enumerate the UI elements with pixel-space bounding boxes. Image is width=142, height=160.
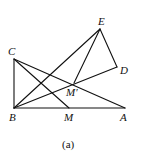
- label-D: D: [119, 64, 128, 76]
- figure-caption: (a): [62, 138, 75, 151]
- segment-B-E: [14, 29, 100, 108]
- label-B: B: [9, 111, 16, 123]
- label-A: A: [119, 111, 127, 123]
- segment-E-D: [100, 29, 117, 67]
- label-E: E: [97, 15, 105, 27]
- label-C: C: [8, 45, 16, 57]
- label-M-prime: M′: [65, 86, 78, 98]
- geometry-figure: C B M A M′ E D (a): [0, 0, 142, 160]
- segment-C-A: [14, 59, 125, 108]
- label-M: M: [63, 111, 74, 123]
